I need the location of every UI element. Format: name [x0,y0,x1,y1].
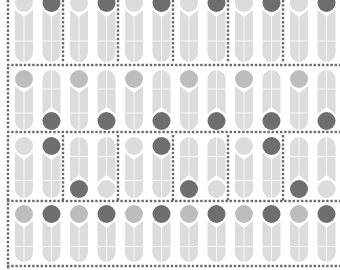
divider-dot [213,131,215,133]
divider-dot [62,55,64,57]
divider-dot [335,265,337,267]
divider-dot [158,64,160,66]
divider-dot [293,200,295,202]
divider-dot [108,131,110,133]
divider-dot [282,152,284,154]
divider-dot [7,38,9,40]
divider-dot [234,64,236,66]
divider-dot [36,131,38,133]
divider-dot [32,131,34,133]
divider-dot [95,64,97,66]
divider-dot [255,265,257,267]
tile-circle [263,112,281,130]
divider-dot [234,200,236,202]
divider-dot [172,156,174,158]
divider-dot [227,13,229,15]
divider-dot [62,42,64,44]
tile-circle [43,137,61,155]
divider-dot [305,200,307,202]
divider-dot [141,200,143,202]
tile-circle [235,70,253,88]
tile-circle [318,180,336,198]
divider-dot [227,17,229,19]
divider-dot [204,64,206,66]
divider-dot [7,75,9,77]
divider-dot [167,64,169,66]
divider-dot [20,265,22,267]
divider-dot [172,42,174,44]
divider-dot [41,200,43,202]
divider-dot [129,265,131,267]
divider-dot [117,173,119,175]
divider-dot [305,64,307,66]
divider-dot [335,131,337,133]
divider-dot [282,169,284,171]
divider-dot [49,64,51,66]
divider-dot [227,169,229,171]
divider-dot [117,38,119,40]
divider-dot [242,131,244,133]
divider-dot [11,131,13,133]
divider-dot [7,190,9,192]
divider-dot [272,265,274,267]
divider-dot [154,64,156,66]
divider-dot [280,200,282,202]
divider-dot [242,265,244,267]
divider-dot [227,34,229,36]
divider-dot [330,200,332,202]
divider-dot [309,265,311,267]
divider-dot [251,64,253,66]
divider-dot [62,190,64,192]
divider-dot [196,265,198,267]
divider-dot [282,8,284,10]
divider-dot [20,200,22,202]
divider-dot [45,131,47,133]
divider-dot [172,0,174,2]
divider-dot [120,131,122,133]
divider-dot [117,55,119,57]
divider-dot [45,64,47,66]
divider-dot [62,181,64,183]
divider-dot [297,64,299,66]
divider-dot [282,194,284,196]
tile-circle [180,205,198,223]
divider-dot [196,131,198,133]
divider-dot [330,131,332,133]
divider-dot [282,173,284,175]
divider-dot [62,177,64,179]
divider-dot [263,265,265,267]
divider-dot [7,203,9,205]
divider-dot [255,64,257,66]
divider-dot [227,21,229,23]
divider-dot [162,131,164,133]
divider-dot [196,64,198,66]
divider-dot [7,84,9,86]
divider-dot [200,64,202,66]
divider-dot [322,200,324,202]
divider-dot [7,148,9,150]
divider-dot [259,265,261,267]
divider-dot [7,88,9,90]
divider-dot [117,59,119,61]
divider-dot [301,200,303,202]
divider-dot [117,135,119,137]
tile-circle [318,0,336,12]
divider-dot [255,131,257,133]
divider-dot [282,160,284,162]
divider-dot [200,131,202,133]
divider-dot [141,64,143,66]
divider-dot [217,200,219,202]
divider-dot [7,224,9,226]
divider-dot [227,181,229,183]
divider-dot [272,200,274,202]
tile-circle [125,70,143,88]
divider-dot [282,164,284,166]
divider-dot [227,148,229,150]
divider-dot [183,265,185,267]
divider-dot [282,139,284,141]
divider-dot [117,17,119,19]
divider-dot [217,265,219,267]
divider-dot [282,4,284,6]
divider-dot [7,0,9,2]
divider-dot [179,64,181,66]
